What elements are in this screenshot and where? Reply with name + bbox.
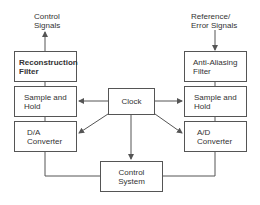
da-converter-box: D/A Converter — [14, 121, 77, 152]
ad-converter-line1: A/D — [197, 128, 210, 137]
da-converter-line2: Converter — [27, 137, 62, 146]
reference-error-signals-label: Reference/ Error Signals — [191, 12, 237, 30]
control-system-line1: Control — [119, 168, 145, 177]
control-signals-line1: Control — [34, 12, 60, 21]
reconstruction-filter-line1: Reconstruction — [19, 58, 78, 67]
right-sample-hold-box: Sample and Hold — [184, 86, 247, 117]
control-system-box: Control System — [100, 161, 163, 192]
anti-aliasing-filter-line1: Anti-Aliasing — [193, 58, 237, 67]
left-sample-hold-line1: Sample and — [24, 93, 67, 102]
left-sample-hold-box: Sample and Hold — [14, 86, 77, 117]
left-sample-hold-line2: Hold — [24, 102, 40, 111]
clock-box: Clock — [108, 88, 155, 115]
anti-aliasing-filter-box: Anti-Aliasing Filter — [184, 51, 247, 82]
reference-signals-line1: Reference/ — [191, 12, 237, 21]
right-sample-hold-line1: Sample and — [194, 93, 237, 102]
control-signals-line2: Signals — [34, 21, 60, 30]
reference-signals-line2: Error Signals — [191, 21, 237, 30]
reconstruction-filter-box: Reconstruction Filter — [14, 51, 77, 82]
anti-aliasing-filter-line2: Filter — [193, 67, 211, 76]
control-system-line2: System — [118, 177, 145, 186]
clock-label: Clock — [121, 97, 141, 106]
ad-converter-line2: Converter — [197, 137, 232, 146]
control-signals-label: Control Signals — [34, 12, 60, 30]
da-converter-line1: D/A — [27, 128, 40, 137]
right-sample-hold-line2: Hold — [194, 102, 210, 111]
reconstruction-filter-line2: Filter — [19, 67, 39, 76]
ad-converter-box: A/D Converter — [184, 121, 247, 152]
